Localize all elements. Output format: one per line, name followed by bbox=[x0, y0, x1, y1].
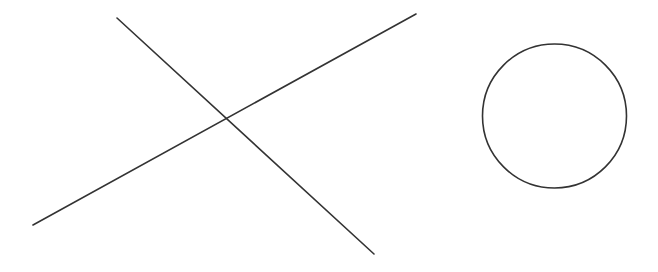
line-descending bbox=[117, 18, 374, 254]
diagram-svg bbox=[0, 0, 658, 272]
circle bbox=[483, 44, 627, 188]
diagram-canvas bbox=[0, 0, 658, 272]
line-ascending bbox=[33, 14, 416, 225]
